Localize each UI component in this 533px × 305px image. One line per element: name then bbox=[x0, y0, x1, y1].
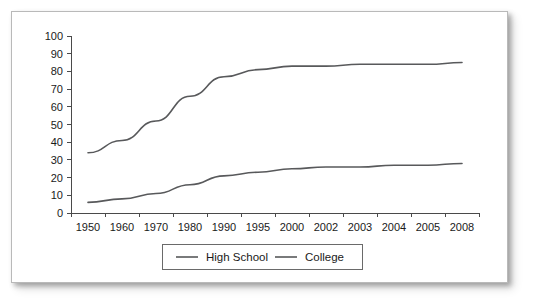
x-tick-label: 2005 bbox=[416, 221, 440, 233]
screenshot-root: 0102030405060708090100 19501960197019801… bbox=[0, 0, 533, 305]
x-tick-label: 2000 bbox=[280, 221, 304, 233]
legend-label-high-school: High School bbox=[206, 251, 268, 263]
y-tick-label: 50 bbox=[51, 119, 63, 131]
y-tick-label: 100 bbox=[45, 30, 63, 42]
y-axis-ticks: 0102030405060708090100 bbox=[45, 30, 71, 219]
y-tick-label: 70 bbox=[51, 83, 63, 95]
series-line-high-school bbox=[88, 63, 462, 153]
x-tick-label: 2002 bbox=[314, 221, 338, 233]
chart-plot-area: 0102030405060708090100 19501960197019801… bbox=[12, 12, 509, 284]
x-tick-label: 1980 bbox=[178, 221, 202, 233]
x-tick-label: 2004 bbox=[382, 221, 406, 233]
x-tick-label: 1950 bbox=[76, 221, 100, 233]
y-tick-label: 60 bbox=[51, 101, 63, 113]
x-axis-ticks: 1950196019701980199019952000200220032004… bbox=[71, 213, 479, 233]
chart-card: 0102030405060708090100 19501960197019801… bbox=[11, 11, 508, 283]
line-chart: 0102030405060708090100 19501960197019801… bbox=[12, 12, 509, 284]
x-axis: 1950196019701980199019952000200220032004… bbox=[71, 213, 479, 233]
x-tick-label: 2008 bbox=[450, 221, 474, 233]
y-tick-label: 80 bbox=[51, 65, 63, 77]
y-axis: 0102030405060708090100 bbox=[45, 30, 71, 219]
y-tick-label: 20 bbox=[51, 172, 63, 184]
y-tick-label: 40 bbox=[51, 136, 63, 148]
legend-label-college: College bbox=[305, 251, 344, 263]
y-tick-label: 10 bbox=[51, 189, 63, 201]
y-tick-label: 90 bbox=[51, 48, 63, 60]
y-tick-label: 0 bbox=[57, 207, 63, 219]
x-tick-label: 1995 bbox=[246, 221, 270, 233]
chart-legend: High School College bbox=[162, 244, 362, 269]
x-tick-label: 1960 bbox=[110, 221, 134, 233]
data-series-group bbox=[88, 63, 462, 203]
series-line-college bbox=[88, 163, 462, 202]
x-tick-label: 1990 bbox=[212, 221, 236, 233]
x-tick-label: 1970 bbox=[144, 221, 168, 233]
y-tick-label: 30 bbox=[51, 154, 63, 166]
x-tick-label: 2003 bbox=[348, 221, 372, 233]
